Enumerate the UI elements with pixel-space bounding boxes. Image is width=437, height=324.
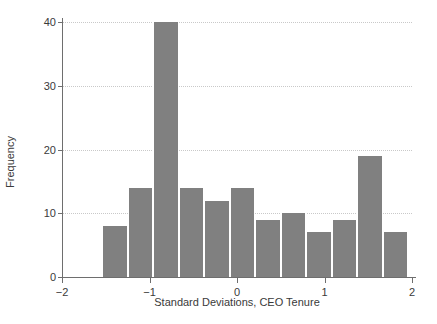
y-tick-label: 10 <box>44 207 56 219</box>
y-axis-label: Frequency <box>4 136 16 188</box>
y-tick-10 <box>58 213 63 214</box>
plot-area <box>62 22 412 277</box>
x-axis-label: Standard Deviations, CEO Tenure <box>62 296 412 308</box>
x-tick--2 <box>62 278 63 283</box>
y-tick-label: 30 <box>44 80 56 92</box>
y-tick-label: 40 <box>44 16 56 28</box>
histogram-bar <box>128 188 154 277</box>
x-tick-1 <box>325 278 326 283</box>
histogram-figure: 010203040 −2−1012 Frequency Standard Dev… <box>0 0 437 324</box>
histogram-bar <box>383 232 409 277</box>
histogram-bar <box>255 220 281 277</box>
gridline-y-20 <box>62 150 412 151</box>
x-tick-2 <box>412 278 413 283</box>
gridline-y-40 <box>62 22 412 23</box>
histogram-bar <box>332 220 358 277</box>
histogram-bar <box>153 22 179 277</box>
x-tick--1 <box>150 278 151 283</box>
x-axis: −2−1012 <box>58 277 416 278</box>
histogram-bar <box>204 201 230 278</box>
y-tick-40 <box>58 22 63 23</box>
gridline-y-30 <box>62 86 412 87</box>
y-tick-20 <box>58 150 63 151</box>
y-axis: 010203040 <box>62 18 63 281</box>
histogram-bar <box>357 156 383 277</box>
histogram-bar <box>179 188 205 277</box>
x-tick-0 <box>237 278 238 283</box>
histogram-bar <box>281 213 307 277</box>
histogram-bar <box>306 232 332 277</box>
histogram-bar <box>102 226 128 277</box>
histogram-bar <box>230 188 256 277</box>
y-tick-30 <box>58 86 63 87</box>
y-tick-label: 20 <box>44 144 56 156</box>
y-tick-label: 0 <box>50 271 56 283</box>
